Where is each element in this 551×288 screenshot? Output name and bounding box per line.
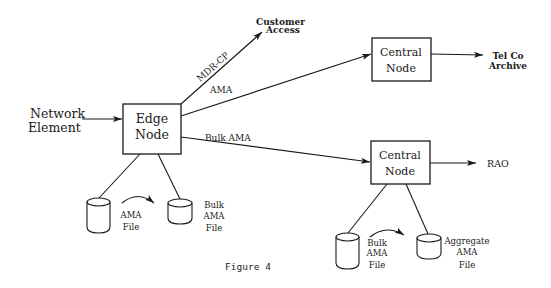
ama-label: AMA <box>209 85 233 95</box>
to-telco-archive-arrow <box>431 54 483 55</box>
central-bulk-file-label-line3: File <box>369 260 385 270</box>
aggregate-file-label-line1: Aggregate <box>443 236 489 246</box>
network-element-label-line1: Network <box>30 106 86 121</box>
central-node-bottom: Central Node <box>371 141 430 184</box>
aggregate-ama-file-label: Aggregate AMA File <box>443 236 489 270</box>
edge-bulk-file-label-line1: Bulk <box>204 200 224 210</box>
ama-file-label-line2: File <box>123 222 139 232</box>
central-to-aggregate-file-link <box>406 184 428 234</box>
central-to-bulk-file-link <box>348 184 387 233</box>
ama-file-label: AMA File <box>120 210 143 232</box>
bulk-ama-label: Bulk AMA <box>205 133 251 143</box>
telco-archive-label-line2: Archive <box>488 61 527 71</box>
edge-bulk-ama-file-label: Bulk AMA File <box>203 200 226 233</box>
central-bulk-file-label-line1: Bulk <box>367 238 387 248</box>
central-node-top: Central Node <box>372 38 431 81</box>
ama-file-cylinder-icon <box>87 198 110 233</box>
aggregate-file-label-line2: AMA <box>456 247 479 257</box>
network-element-label-line2: Element <box>28 120 81 135</box>
aggregate-ama-file-cylinder-icon <box>417 234 441 259</box>
figure-caption: Figure 4 <box>225 261 271 272</box>
customer-access-label-line2: Access <box>265 25 300 35</box>
edge-node: Edge Node <box>123 104 181 154</box>
bulk-to-aggregate-transfer-arrow <box>370 230 404 237</box>
central-node-top-label-line1: Central <box>380 46 422 59</box>
telco-archive: Tel Co Archive <box>488 51 527 71</box>
network-element: Network Element <box>28 106 86 135</box>
edge-to-bulk-file-link <box>158 154 180 199</box>
rao-label: RAO <box>487 158 509 169</box>
central-node-bottom-label-line1: Central <box>379 149 421 162</box>
telco-archive-label-line1: Tel Co <box>492 51 523 61</box>
mdr-cp-label: MDR-CP <box>195 50 231 83</box>
ama-to-bulk-transfer-arrow <box>122 197 154 204</box>
central-bulk-ama-file-cylinder-icon <box>336 233 359 269</box>
central-node-top-label-line2: Node <box>386 62 416 75</box>
ama-flow-diagram: Network Element Edge Node MDR-CP Custome… <box>0 0 551 288</box>
central-bulk-file-label-line2: AMA <box>366 248 389 258</box>
aggregate-file-label-line3: File <box>459 260 475 270</box>
edge-to-ama-file-link <box>99 154 140 198</box>
central-bulk-ama-file-label: Bulk AMA File <box>366 238 389 270</box>
edge-bulk-file-label-line2: AMA <box>203 211 226 221</box>
customer-access: Customer Access <box>256 17 305 35</box>
ama-file-label-line1: AMA <box>120 210 143 220</box>
edge-node-label-line1: Edge <box>136 111 169 126</box>
edge-node-label-line2: Node <box>135 127 169 142</box>
edge-bulk-file-label-line3: File <box>206 223 222 233</box>
edge-bulk-ama-file-cylinder-icon <box>168 199 192 224</box>
central-node-bottom-label-line2: Node <box>385 165 415 178</box>
